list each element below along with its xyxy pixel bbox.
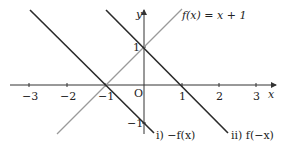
y-tick-label: 1 <box>133 42 140 53</box>
x-tick-label: −1 <box>98 91 114 102</box>
x-tick-label: 2 <box>216 91 223 102</box>
y-tick-label: −1 <box>127 118 143 129</box>
line-neg-f-x <box>30 10 154 133</box>
x-tick-label: −2 <box>60 91 76 102</box>
x-tick-label: 3 <box>253 91 260 102</box>
line-label-neg-f-x: i) −f(x) <box>156 130 195 141</box>
x-axis-label: x <box>268 89 274 100</box>
line-label-f-x: f(x) = x + 1 <box>182 10 246 21</box>
line-f-neg-x <box>106 10 228 133</box>
x-tick-label: −3 <box>22 91 38 102</box>
line-f-x <box>57 9 182 134</box>
origin-label: O <box>134 88 143 99</box>
y-axis-label: y <box>136 9 142 20</box>
x-tick-label: 1 <box>179 91 186 102</box>
line-label-f-neg-x: ii) f(−x) <box>231 130 274 141</box>
